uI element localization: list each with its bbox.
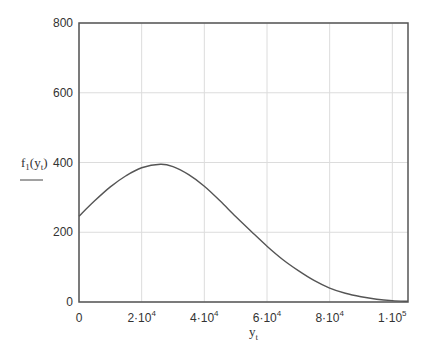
y-tick-label: 800 [53,16,73,30]
svg-text:f1(yt): f1(yt) [21,155,48,172]
y-axis-ticks: 0200400600800 [53,16,73,309]
y-tick-label: 600 [53,86,73,100]
y-axis-label: f1(yt) [20,155,48,180]
x-tick-label: 4·104 [190,309,219,325]
data-curve [79,164,408,301]
x-axis-label: yt [249,324,259,342]
chart: 0200400600800 02·1044·1046·1048·1041·105… [0,0,426,356]
x-tick-label: 1·105 [378,309,407,325]
y-tick-label: 400 [53,156,73,170]
grid-lines [79,23,408,302]
x-tick-label: 2·104 [127,309,156,325]
svg-text:yt: yt [249,324,259,342]
y-tick-label: 200 [53,225,73,239]
x-tick-label: 6·104 [253,309,282,325]
y-tick-label: 0 [66,295,73,309]
plot-area [79,164,408,301]
x-tick-label: 0 [76,311,83,325]
x-axis-ticks: 02·1044·1046·1048·1041·105 [76,309,407,325]
x-tick-label: 8·104 [315,309,344,325]
